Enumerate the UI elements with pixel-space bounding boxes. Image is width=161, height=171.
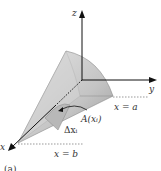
z-arrow-icon bbox=[79, 10, 85, 18]
x-eq-b-label: x = b bbox=[54, 149, 78, 159]
y-arrow-icon bbox=[149, 77, 157, 83]
caption-label: (a) bbox=[4, 164, 16, 171]
y-label: y bbox=[148, 84, 155, 94]
area-label: A(xᵢ) bbox=[80, 114, 102, 124]
diagram-canvas: z y x x = a x = b A(xᵢ) Δxᵢ (a) bbox=[0, 0, 161, 171]
x-label: x bbox=[0, 142, 5, 152]
axes bbox=[8, 10, 157, 151]
x-eq-a-label: x = a bbox=[114, 102, 138, 112]
delta-label: Δxᵢ bbox=[64, 125, 78, 135]
z-label: z bbox=[71, 8, 77, 18]
